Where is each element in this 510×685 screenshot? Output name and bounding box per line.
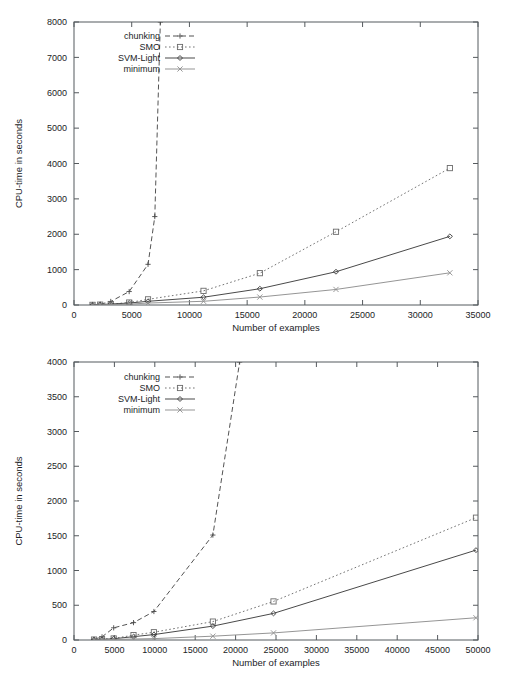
legend-item-svm-light: SVM-Light xyxy=(118,394,195,404)
legend: chunkingSMOSVM-Lightminimum xyxy=(118,372,195,415)
legend-marker xyxy=(177,374,182,379)
data-point xyxy=(151,609,156,614)
x-tick-label: 0 xyxy=(71,645,76,655)
series-line xyxy=(94,518,476,640)
x-tick-label: 0 xyxy=(71,310,76,320)
chart-panel-bottom: 0500100015002000250030003500400005000100… xyxy=(0,340,510,685)
data-point xyxy=(333,229,338,234)
x-tick-label: 10000 xyxy=(177,310,202,320)
y-axis-title: CPU-time in seconds xyxy=(13,119,24,208)
legend-label: SMO xyxy=(139,42,160,52)
legend-item-smo: SMO xyxy=(139,383,195,393)
series-minimum xyxy=(91,615,478,642)
legend-item-chunking: chunking xyxy=(124,31,195,41)
x-tick-label: 40000 xyxy=(385,645,410,655)
x-tick-label: 20000 xyxy=(223,645,248,655)
series-line xyxy=(94,362,240,639)
legend-item-svm-light: SVM-Light xyxy=(118,53,195,63)
series-smo xyxy=(91,515,478,642)
y-tick-label: 3500 xyxy=(47,392,67,402)
plot-area-top: 0100020003000400050006000700080000500010… xyxy=(0,0,510,345)
x-tick-label: 10000 xyxy=(142,645,167,655)
data-point xyxy=(257,271,262,276)
x-tick-label: 30000 xyxy=(408,310,433,320)
data-point xyxy=(158,19,163,24)
legend-label: minimum xyxy=(123,64,160,74)
x-tick-label: 30000 xyxy=(304,645,329,655)
y-tick-label: 1000 xyxy=(47,566,67,576)
data-point xyxy=(201,288,206,293)
x-tick-label: 25000 xyxy=(263,645,288,655)
y-tick-label: 2000 xyxy=(47,229,67,239)
legend-label: chunking xyxy=(124,31,160,41)
x-tick-label: 25000 xyxy=(350,310,375,320)
x-tick-label: 5000 xyxy=(122,310,142,320)
y-tick-label: 5000 xyxy=(47,123,67,133)
y-tick-label: 8000 xyxy=(47,17,67,27)
y-tick-label: 6000 xyxy=(47,88,67,98)
legend: chunkingSMOSVM-Lightminimum xyxy=(118,31,195,74)
x-tick-label: 20000 xyxy=(292,310,317,320)
legend-label: chunking xyxy=(124,372,160,382)
series-chunking xyxy=(91,359,242,642)
legend-item-smo: SMO xyxy=(139,42,195,52)
data-point xyxy=(237,359,242,364)
x-axis-title: Number of examples xyxy=(232,657,320,668)
y-tick-label: 500 xyxy=(52,600,67,610)
y-tick-label: 3000 xyxy=(47,194,67,204)
y-tick-label: 1500 xyxy=(47,531,67,541)
series-svm-light xyxy=(91,548,478,642)
legend-marker xyxy=(177,33,182,38)
y-tick-label: 2500 xyxy=(47,461,67,471)
legend-item-minimum: minimum xyxy=(123,405,195,415)
y-tick-label: 3000 xyxy=(47,427,67,437)
x-axis-title: Number of examples xyxy=(232,322,320,333)
data-point xyxy=(145,262,150,267)
y-axis: 05001000150020002500300035004000 xyxy=(47,357,478,645)
data-point xyxy=(131,620,136,625)
legend-label: SVM-Light xyxy=(118,394,161,404)
y-tick-label: 4000 xyxy=(47,357,67,367)
x-tick-label: 35000 xyxy=(344,645,369,655)
y-tick-label: 4000 xyxy=(47,159,67,169)
x-tick-label: 45000 xyxy=(425,645,450,655)
x-tick-label: 5000 xyxy=(104,645,124,655)
legend-item-chunking: chunking xyxy=(124,372,195,382)
y-axis: 010002000300040005000600070008000 xyxy=(47,17,478,310)
legend-label: SVM-Light xyxy=(118,53,161,63)
x-tick-label: 50000 xyxy=(465,645,490,655)
x-tick-label: 15000 xyxy=(235,310,260,320)
data-point xyxy=(152,214,157,219)
x-tick-label: 15000 xyxy=(183,645,208,655)
x-tick-label: 35000 xyxy=(465,310,490,320)
legend-label: minimum xyxy=(123,405,160,415)
y-axis-title: CPU-time in seconds xyxy=(13,456,24,545)
y-tick-label: 0 xyxy=(62,635,67,645)
y-tick-label: 0 xyxy=(62,300,67,310)
legend-item-minimum: minimum xyxy=(123,64,195,74)
y-tick-label: 7000 xyxy=(47,53,67,63)
y-tick-label: 1000 xyxy=(47,265,67,275)
series-line xyxy=(94,550,476,640)
legend-label: SMO xyxy=(139,383,160,393)
y-tick-label: 2000 xyxy=(47,496,67,506)
plot-area-bottom: 0500100015002000250030003500400005000100… xyxy=(0,340,510,685)
series-line xyxy=(93,168,450,305)
chart-panel-top: 0100020003000400050006000700080000500010… xyxy=(0,0,510,345)
series-line xyxy=(93,236,450,304)
